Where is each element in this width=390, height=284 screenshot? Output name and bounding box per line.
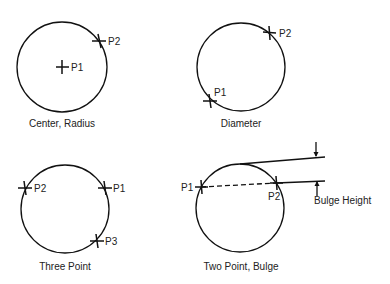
tangent-line <box>240 157 325 164</box>
caption: Diameter <box>221 118 262 129</box>
point-label-p1: P1 <box>181 182 194 193</box>
circle-methods-diagram: P1 P2 Center, Radius P2 P1 Diameter P2 <box>0 0 390 284</box>
arrow-up-icon <box>315 181 320 196</box>
panel-three-point: P2 P1 P3 Three Point <box>18 165 126 272</box>
point-label-p2: P2 <box>279 28 292 39</box>
cross-marker-p1 <box>195 180 208 194</box>
point-label-p2: P2 <box>268 191 281 202</box>
caption: Center, Radius <box>29 118 95 129</box>
cross-marker-p1 <box>56 60 69 74</box>
panel-two-point-bulge: P1 P2 Bulge Height Two Point, Bulge <box>181 142 371 272</box>
arrow-down-icon <box>314 142 319 157</box>
point-label-p1: P1 <box>71 62 84 73</box>
point-label-p1: P1 <box>113 183 126 194</box>
point-label-p3: P3 <box>105 236 118 247</box>
cross-marker-p3 <box>90 234 104 248</box>
circle <box>21 165 109 253</box>
point-label-p1: P1 <box>214 87 227 98</box>
chord-dashed-line <box>201 183 276 187</box>
point-label-p2: P2 <box>108 36 121 47</box>
caption: Three Point <box>39 261 91 272</box>
point-label-p2: P2 <box>34 183 47 194</box>
panel-center-radius: P1 P2 Center, Radius <box>17 22 121 129</box>
bulge-height-label: Bulge Height <box>314 195 371 206</box>
caption: Two Point, Bulge <box>203 261 278 272</box>
panel-diameter: P2 P1 Diameter <box>197 23 292 129</box>
circle <box>196 164 284 252</box>
